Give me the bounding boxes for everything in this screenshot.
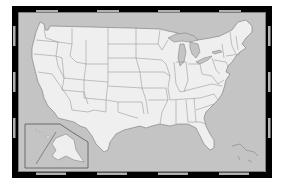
- map-canvas: [0, 0, 283, 186]
- us-map: [0, 0, 283, 186]
